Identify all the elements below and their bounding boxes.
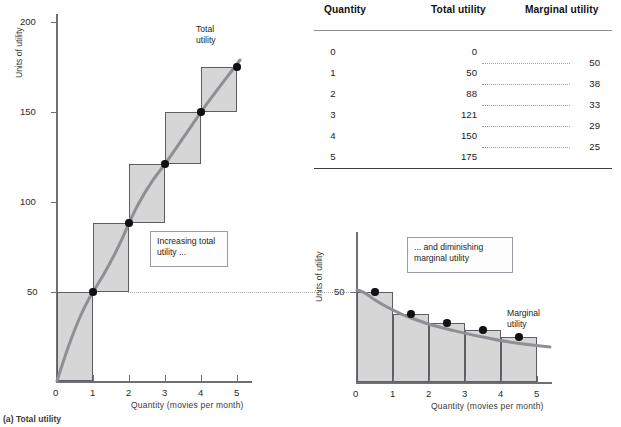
total-utility-x-axis-label: Quantity (movies per month) (131, 400, 244, 410)
x-tick-0: 0 (353, 388, 358, 399)
x-tickmark (537, 376, 538, 383)
data-point (89, 288, 97, 296)
data-point (371, 288, 379, 296)
total-utility-chart: Units of utility 50 100 150 200 (0, 0, 300, 410)
marginal-utility-curve-label-line1: Marginal (507, 308, 540, 318)
x-tick-1: 1 (90, 387, 95, 398)
x-tick-4: 4 (498, 388, 503, 399)
data-point (197, 108, 205, 116)
x-tickmark (501, 376, 502, 383)
diminishing-marginal-utility-callout: ... and diminishing marginal utility (407, 237, 513, 273)
x-tickmark (201, 375, 202, 382)
x-tickmark (393, 376, 394, 383)
diminishing-callout-line1: ... and diminishing (414, 242, 483, 252)
x-tickmark (93, 375, 94, 382)
marginal-utility-x-axis-label: Quantity (movies per month) (431, 401, 544, 411)
x-tick-5: 5 (534, 388, 539, 399)
x-tickmark (237, 375, 238, 382)
figure-caption: (a) Total utility (3, 414, 61, 424)
total-utility-curve-label: Total utility (196, 24, 216, 46)
data-point (125, 219, 133, 227)
data-point (233, 63, 241, 71)
data-point (443, 319, 451, 327)
total-utility-curve (0, 0, 300, 410)
data-point (407, 310, 415, 318)
x-tickmark (465, 376, 466, 383)
data-point (479, 326, 487, 334)
x-tick-4: 4 (198, 387, 203, 398)
data-point (161, 160, 169, 168)
marginal-utility-curve-label: Marginal utility (507, 308, 540, 330)
total-utility-curve-label-line2: utility (196, 35, 216, 45)
increasing-total-utility-callout: Increasing total utility ... (150, 231, 228, 267)
figure-root: Quantity Total utility Marginal utility … (0, 0, 621, 427)
x-tick-3: 3 (462, 388, 467, 399)
data-point (515, 333, 523, 341)
x-tick-2: 2 (426, 388, 431, 399)
total-utility-curve-label-line1: Total (196, 24, 214, 34)
x-tick-5: 5 (234, 387, 239, 398)
x-tickmark (429, 376, 430, 383)
x-tickmark (129, 375, 130, 382)
marginal-utility-curve-label-line2: utility (507, 319, 527, 329)
x-tick-1: 1 (390, 388, 395, 399)
x-tick-0: 0 (53, 387, 58, 398)
x-tick-3: 3 (162, 387, 167, 398)
marginal-utility-chart: Units of utility 50 Marginal utility (300, 0, 621, 427)
x-tickmark (165, 375, 166, 382)
diminishing-callout-line2: marginal utility (414, 253, 469, 263)
x-tick-2: 2 (126, 387, 131, 398)
marginal-utility-curve (300, 0, 621, 427)
